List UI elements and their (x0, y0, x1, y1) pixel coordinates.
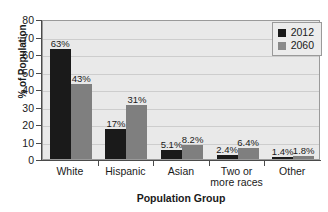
bar-2012 (217, 155, 238, 159)
chart-legend: 2012 2060 (272, 22, 322, 56)
bar-2012 (161, 150, 182, 159)
bar-chart: % of Population 01020304050607080 63%43%… (0, 0, 328, 212)
bar-value-label: 8.2% (173, 135, 212, 145)
bar-value-label: 1.8% (284, 146, 323, 156)
bar-2060 (238, 148, 259, 159)
y-tick-label: 60 (4, 50, 34, 60)
bar-value-label: 63% (41, 39, 80, 49)
bar-2060 (71, 84, 92, 159)
bar-2012 (105, 129, 126, 159)
category-label: Other (258, 166, 326, 177)
y-tick-label: 0 (4, 155, 34, 165)
bar-2012 (272, 157, 293, 159)
y-tick-label: 40 (4, 85, 34, 95)
gray-square-swatch-icon (278, 42, 286, 50)
y-tick-label: 80 (4, 15, 34, 25)
legend-entry-2060: 2060 (278, 39, 314, 52)
y-tick-label: 50 (4, 68, 34, 78)
bar-2060 (126, 105, 147, 159)
legend-label: 2060 (291, 40, 314, 51)
y-axis-line (41, 20, 42, 161)
black-square-swatch-icon (278, 29, 286, 37)
y-tick-label: 30 (4, 103, 34, 113)
legend-entry-2012: 2012 (278, 26, 314, 39)
bar-value-label: 6.4% (229, 138, 268, 148)
y-tick-label: 20 (4, 120, 34, 130)
x-axis-title: Population Group (42, 192, 320, 204)
bar-2012 (50, 49, 71, 159)
category-label-line: Other (258, 166, 326, 177)
bar-value-label: 43% (62, 74, 101, 84)
bar-2060 (182, 145, 203, 159)
gridline (43, 56, 319, 57)
category-label-line: more races (203, 177, 271, 188)
bar-value-label: 31% (117, 95, 156, 105)
bar-2060 (293, 156, 314, 159)
x-axis-line (41, 160, 321, 161)
y-tick-label: 10 (4, 138, 34, 148)
legend-label: 2012 (291, 27, 314, 38)
y-tick-label: 70 (4, 33, 34, 43)
